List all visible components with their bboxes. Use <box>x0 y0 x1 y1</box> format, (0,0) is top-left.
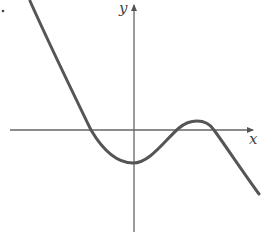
function-curve <box>30 1 259 194</box>
function-graph: x y <box>0 0 261 244</box>
stray-dot <box>2 10 5 13</box>
x-axis-label: x <box>249 130 258 148</box>
y-axis-label: y <box>118 0 128 17</box>
